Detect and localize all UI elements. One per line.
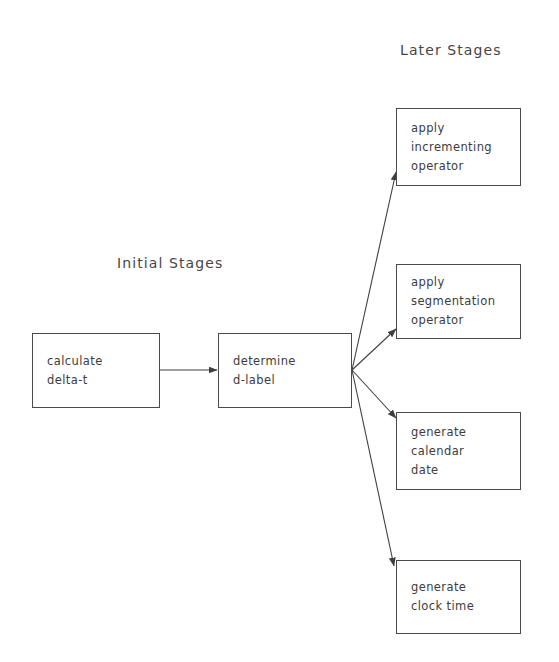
node-text-line: clock time (411, 597, 520, 616)
node-generate-clock-time[interactable]: generate clock time (396, 560, 521, 634)
node-text-line: apply (411, 273, 520, 292)
node-text-line: calendar (411, 442, 520, 461)
node-text-line: calculate (47, 352, 159, 371)
node-text-line: generate (411, 578, 520, 597)
edge-determine-to-clock (352, 370, 394, 566)
node-text-line: generate (411, 423, 520, 442)
node-apply-incrementing-operator[interactable]: apply incrementing operator (396, 108, 521, 186)
node-text-line: d-label (233, 371, 351, 390)
section-label-initial-stages: Initial Stages (117, 255, 223, 271)
node-calculate-delta-t[interactable]: calculate delta-t (32, 333, 160, 408)
flowchart-diagram: Later Stages Initial Stages calculate de… (0, 0, 559, 662)
section-label-later-stages: Later Stages (400, 42, 502, 58)
edge-determine-to-segmentation (352, 329, 396, 370)
node-text-line: segmentation (411, 292, 520, 311)
node-text-line: determine (233, 352, 351, 371)
node-apply-segmentation-operator[interactable]: apply segmentation operator (396, 264, 521, 339)
node-text-line: date (411, 461, 520, 480)
node-text-line: operator (411, 157, 520, 176)
edge-determine-to-calendar (352, 370, 396, 418)
node-text-line: incrementing (411, 138, 520, 157)
node-determine-d-label[interactable]: determine d-label (218, 333, 352, 408)
node-text-line: delta-t (47, 371, 159, 390)
node-generate-calendar-date[interactable]: generate calendar date (396, 412, 521, 490)
node-text-line: apply (411, 119, 520, 138)
node-text-line: operator (411, 311, 520, 330)
edge-determine-to-incrementing (352, 172, 396, 370)
